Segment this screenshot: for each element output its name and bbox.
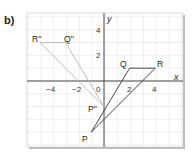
coordinate-grid: x y 0 −4 −2 2 4 4 2 R'' Q'' P'' Q R P <box>0 0 194 156</box>
x-tick-label: −2 <box>72 85 82 94</box>
y-tick-label: 4 <box>96 26 101 35</box>
origin-label: 0 <box>96 85 101 94</box>
y-axis-label: y <box>106 14 112 24</box>
x-axis-label: x <box>173 72 179 82</box>
point-label-r-double-prime: R'' <box>32 34 42 44</box>
point-label-q-double-prime: Q'' <box>64 34 74 44</box>
y-tick-label: 2 <box>96 51 101 60</box>
point-label-r: R <box>157 59 163 69</box>
point-label-p-double-prime: P'' <box>88 104 97 114</box>
grid-lines <box>27 13 183 147</box>
x-tick-label: −4 <box>46 85 56 94</box>
point-label-q: Q <box>120 59 127 69</box>
x-tick-label: 4 <box>152 85 157 94</box>
point-label-p: P <box>82 134 88 144</box>
